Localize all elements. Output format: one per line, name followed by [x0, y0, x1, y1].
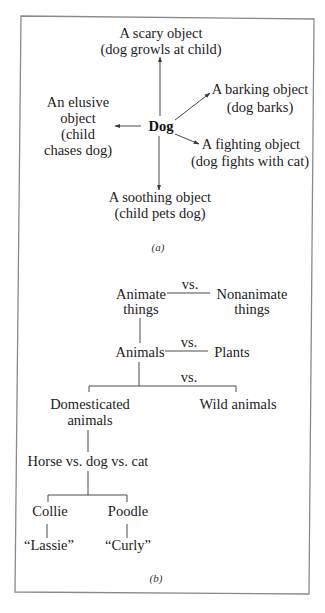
nonanimate-things-line2: things — [234, 301, 270, 317]
upper-right-label-line1: A barking object — [212, 81, 309, 97]
curly-label: “Curly” — [105, 537, 151, 553]
left-label-line3: (child — [61, 126, 96, 143]
diagram-canvas: A scary object (dog growls at child) An … — [0, 0, 325, 613]
plants-label: Plants — [214, 344, 250, 360]
caption-b: (b) — [150, 572, 163, 585]
animate-things-line1: Animate — [116, 286, 166, 302]
lower-right-label-line1: A fighting object — [202, 136, 300, 152]
nonanimate-things-line1: Nonanimate — [217, 286, 288, 302]
lower-right-label-line2: (dog fights with cat) — [191, 153, 309, 170]
left-label-line1: An elusive — [47, 94, 109, 110]
bottom-label-line2: (child pets dog) — [114, 205, 205, 222]
tree-bracket-2 — [48, 495, 127, 502]
arrow-upper-right — [175, 93, 210, 120]
panel-b: Animate things vs. Nonanimate things Ani… — [24, 276, 287, 585]
vs-label-2: vs. — [181, 334, 198, 350]
vs-label-3: vs. — [181, 369, 198, 385]
caption-a: (a) — [152, 241, 165, 254]
upper-right-label-line2: (dog barks) — [227, 99, 294, 116]
left-label-line4: chases dog) — [44, 142, 112, 159]
left-label-line2: object — [60, 110, 95, 126]
center-label-dog: Dog — [149, 118, 175, 134]
horse-dog-cat-label: Horse vs. dog vs. cat — [28, 453, 149, 469]
arrow-lower-right — [175, 134, 199, 144]
animals-label: Animals — [115, 344, 164, 360]
domesticated-animals-line1: Domesticated — [50, 396, 130, 412]
lassie-label: “Lassie” — [24, 537, 74, 553]
wild-animals-label: Wild animals — [199, 396, 276, 412]
poodle-label: Poodle — [108, 503, 148, 519]
tree-bracket-1 — [89, 386, 236, 392]
animate-things-line2: things — [123, 301, 159, 317]
collie-label: Collie — [32, 503, 67, 519]
domesticated-animals-line2: animals — [67, 412, 112, 428]
top-label-line1: A scary object — [120, 25, 203, 41]
vs-label-1: vs. — [182, 276, 199, 292]
panel-a: A scary object (dog growls at child) An … — [44, 25, 309, 254]
top-label-line2: (dog growls at child) — [100, 41, 221, 58]
bottom-label-line1: A soothing object — [109, 189, 211, 205]
